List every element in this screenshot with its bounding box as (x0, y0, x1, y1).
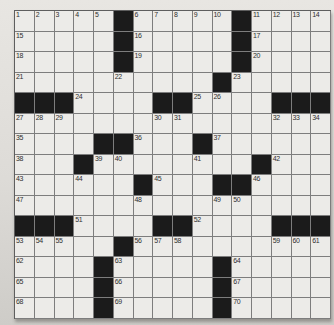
white-square[interactable] (55, 73, 75, 94)
white-square[interactable] (94, 175, 114, 196)
white-square[interactable] (114, 93, 134, 114)
white-square[interactable] (252, 73, 272, 94)
white-square[interactable] (292, 52, 312, 73)
white-square[interactable] (311, 196, 331, 217)
white-square[interactable] (252, 114, 272, 135)
white-square[interactable]: 15 (15, 32, 35, 53)
white-square[interactable] (272, 257, 292, 278)
white-square[interactable] (292, 32, 312, 53)
white-square[interactable] (292, 196, 312, 217)
white-square[interactable]: 57 (153, 237, 173, 258)
white-square[interactable] (252, 134, 272, 155)
white-square[interactable] (292, 73, 312, 94)
white-square[interactable] (252, 237, 272, 258)
white-square[interactable] (74, 114, 94, 135)
white-square[interactable] (35, 278, 55, 299)
white-square[interactable]: 62 (15, 257, 35, 278)
white-square[interactable] (74, 32, 94, 53)
white-square[interactable]: 39 (94, 155, 114, 176)
white-square[interactable] (153, 73, 173, 94)
white-square[interactable] (55, 257, 75, 278)
white-square[interactable]: 49 (213, 196, 233, 217)
white-square[interactable]: 51 (74, 216, 94, 237)
white-square[interactable] (114, 175, 134, 196)
white-square[interactable]: 21 (15, 73, 35, 94)
white-square[interactable]: 30 (153, 114, 173, 135)
white-square[interactable] (94, 73, 114, 94)
white-square[interactable]: 54 (35, 237, 55, 258)
white-square[interactable]: 25 (193, 93, 213, 114)
white-square[interactable]: 48 (134, 196, 154, 217)
white-square[interactable] (94, 32, 114, 53)
white-square[interactable]: 16 (134, 32, 154, 53)
white-square[interactable]: 66 (114, 278, 134, 299)
white-square[interactable] (252, 216, 272, 237)
white-square[interactable]: 19 (134, 52, 154, 73)
white-square[interactable] (94, 114, 114, 135)
white-square[interactable]: 18 (15, 52, 35, 73)
white-square[interactable] (193, 52, 213, 73)
white-square[interactable] (173, 52, 193, 73)
white-square[interactable] (213, 216, 233, 237)
white-square[interactable] (114, 114, 134, 135)
white-square[interactable]: 12 (272, 11, 292, 32)
white-square[interactable] (55, 298, 75, 319)
white-square[interactable]: 47 (15, 196, 35, 217)
white-square[interactable] (153, 196, 173, 217)
white-square[interactable] (35, 134, 55, 155)
white-square[interactable] (153, 32, 173, 53)
white-square[interactable] (193, 298, 213, 319)
white-square[interactable] (272, 278, 292, 299)
white-square[interactable] (134, 216, 154, 237)
white-square[interactable]: 9 (193, 11, 213, 32)
white-square[interactable] (74, 298, 94, 319)
white-square[interactable]: 5 (94, 11, 114, 32)
white-square[interactable] (252, 298, 272, 319)
white-square[interactable] (114, 196, 134, 217)
white-square[interactable] (213, 32, 233, 53)
white-square[interactable]: 23 (232, 73, 252, 94)
white-square[interactable]: 42 (272, 155, 292, 176)
white-square[interactable]: 10 (213, 11, 233, 32)
white-square[interactable] (173, 196, 193, 217)
white-square[interactable] (272, 52, 292, 73)
white-square[interactable]: 63 (114, 257, 134, 278)
white-square[interactable]: 32 (272, 114, 292, 135)
white-square[interactable]: 28 (35, 114, 55, 135)
white-square[interactable] (134, 155, 154, 176)
white-square[interactable]: 67 (232, 278, 252, 299)
white-square[interactable]: 22 (114, 73, 134, 94)
white-square[interactable] (153, 52, 173, 73)
white-square[interactable] (213, 114, 233, 135)
white-square[interactable]: 8 (173, 11, 193, 32)
white-square[interactable] (55, 175, 75, 196)
white-square[interactable] (272, 32, 292, 53)
white-square[interactable]: 29 (55, 114, 75, 135)
white-square[interactable] (232, 155, 252, 176)
white-square[interactable] (153, 155, 173, 176)
white-square[interactable] (292, 155, 312, 176)
white-square[interactable] (35, 175, 55, 196)
white-square[interactable] (173, 134, 193, 155)
white-square[interactable] (74, 196, 94, 217)
white-square[interactable] (55, 52, 75, 73)
white-square[interactable] (94, 237, 114, 258)
white-square[interactable]: 33 (292, 114, 312, 135)
white-square[interactable]: 56 (134, 237, 154, 258)
white-square[interactable] (292, 278, 312, 299)
white-square[interactable] (193, 73, 213, 94)
white-square[interactable] (311, 52, 331, 73)
white-square[interactable] (311, 298, 331, 319)
white-square[interactable]: 70 (232, 298, 252, 319)
white-square[interactable]: 1 (15, 11, 35, 32)
white-square[interactable] (74, 52, 94, 73)
white-square[interactable] (311, 32, 331, 53)
white-square[interactable]: 38 (15, 155, 35, 176)
white-square[interactable]: 35 (15, 134, 35, 155)
white-square[interactable] (153, 298, 173, 319)
white-square[interactable] (134, 114, 154, 135)
white-square[interactable] (232, 237, 252, 258)
white-square[interactable] (35, 73, 55, 94)
white-square[interactable]: 3 (55, 11, 75, 32)
white-square[interactable] (55, 278, 75, 299)
